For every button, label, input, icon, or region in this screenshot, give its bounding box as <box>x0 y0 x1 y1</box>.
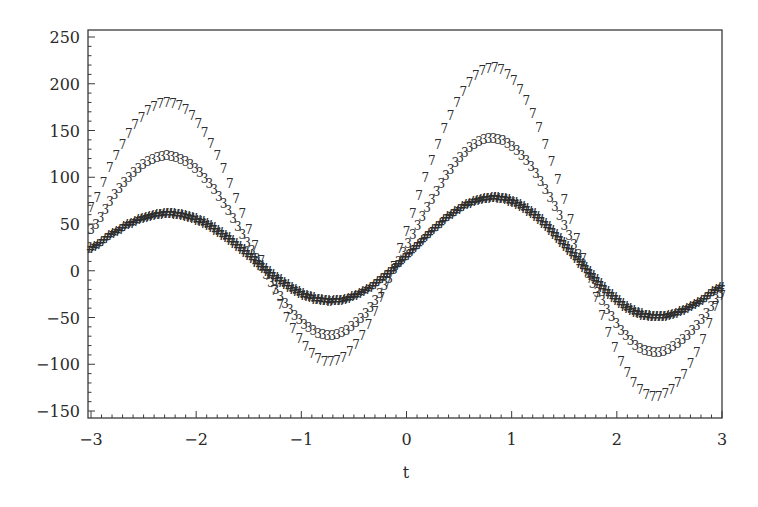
data-point-marker: 7 <box>434 138 442 152</box>
data-point-marker: 7 <box>605 326 613 340</box>
data-point-marker: 7 <box>428 154 436 168</box>
data-point-marker: 7 <box>239 207 247 221</box>
y-tick-label: 200 <box>49 75 80 94</box>
data-point-marker: 7 <box>529 107 537 121</box>
data-point-marker: 7 <box>93 191 101 205</box>
y-tick-label: −150 <box>36 402 80 421</box>
data-point-marker: 7 <box>100 176 108 190</box>
y-tick-label: 150 <box>49 122 80 141</box>
data-point-marker: 7 <box>699 333 707 347</box>
chart-canvas: −3−2−10123 250200150100500−50−100−150 t … <box>0 0 758 507</box>
series-layer: 7777777777777777777777777777777777777777… <box>86 61 726 403</box>
x-axis-title: t <box>403 463 410 482</box>
data-point-marker: 7 <box>422 171 430 185</box>
x-tick-label: −2 <box>184 430 208 449</box>
y-tick-label: 0 <box>70 262 80 281</box>
data-point-marker: 7 <box>220 162 228 176</box>
data-point-marker: 7 <box>447 109 455 123</box>
data-point-marker: 7 <box>560 193 568 207</box>
data-point-marker: 7 <box>106 161 114 175</box>
y-axis-tick-labels: 250200150100500−50−100−150 <box>36 28 80 421</box>
data-point-marker: 7 <box>441 122 449 136</box>
x-tick-label: 2 <box>612 430 622 449</box>
y-tick-label: 250 <box>49 28 80 47</box>
x-tick-label: −1 <box>290 430 314 449</box>
x-tick-label: 3 <box>717 430 727 449</box>
x-axis-tick-labels: −3−2−10123 <box>79 430 727 449</box>
x-tick-label: 1 <box>507 430 517 449</box>
data-point-marker: 7 <box>226 177 234 191</box>
y-tick-label: −100 <box>36 355 80 374</box>
data-point-marker: 7 <box>554 173 562 187</box>
data-point-marker: 7 <box>693 346 701 360</box>
series-upper: 7777777777777777777777777777777777777777… <box>87 61 726 403</box>
data-point-marker: 7 <box>611 341 619 355</box>
data-point-marker: 7 <box>541 138 549 152</box>
y-tick-label: −50 <box>46 309 80 328</box>
data-point-marker: 7 <box>535 121 543 135</box>
data-point-marker: 7 <box>232 192 240 206</box>
series-lower: ########################################… <box>86 191 725 324</box>
x-tick-label: −3 <box>79 430 103 449</box>
data-point-marker: 7 <box>415 189 423 203</box>
y-tick-label: 100 <box>49 168 80 187</box>
x-axis-ticks <box>91 411 722 418</box>
data-point-marker: # <box>715 281 725 295</box>
x-tick-label: 0 <box>401 430 411 449</box>
data-point-marker: 7 <box>213 149 221 163</box>
data-point-marker: 7 <box>548 155 556 169</box>
y-tick-label: 50 <box>60 215 80 234</box>
